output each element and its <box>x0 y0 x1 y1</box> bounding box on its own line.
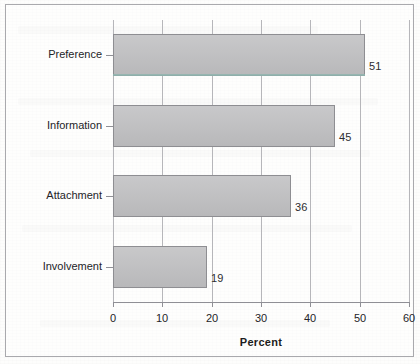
y-tick-mark <box>106 55 113 56</box>
x-tick-mark <box>261 302 262 307</box>
bar-preference <box>113 34 365 76</box>
bar-involvement <box>113 246 207 288</box>
x-tick-label: 10 <box>147 312 177 324</box>
x-tick-mark <box>212 302 213 307</box>
y-tick-mark <box>106 196 113 197</box>
x-tick-mark <box>310 302 311 307</box>
x-tick-label: 20 <box>197 312 227 324</box>
x-tick-mark <box>113 302 114 307</box>
x-tick-label: 0 <box>98 312 128 324</box>
category-label-information: Information <box>20 119 102 131</box>
x-tick-label: 30 <box>246 312 276 324</box>
figure-root: 0102030405060Preference51Information45At… <box>0 0 420 364</box>
value-label-information: 45 <box>339 131 352 143</box>
bar-attachment <box>113 175 291 217</box>
x-tick-label: 50 <box>345 312 375 324</box>
x-tick-mark <box>360 302 361 307</box>
x-gridline <box>409 20 410 302</box>
category-label-involvement: Involvement <box>20 260 102 272</box>
category-label-preference: Preference <box>20 48 102 60</box>
x-tick-label: 40 <box>295 312 325 324</box>
value-label-attachment: 36 <box>295 201 308 213</box>
x-axis-title: Percent <box>113 336 409 348</box>
bar-information <box>113 105 335 147</box>
y-tick-mark <box>106 126 113 127</box>
x-tick-mark <box>409 302 410 307</box>
x-tick-mark <box>162 302 163 307</box>
value-label-preference: 51 <box>369 60 382 72</box>
x-tick-label: 60 <box>394 312 420 324</box>
y-tick-mark <box>106 267 113 268</box>
category-label-attachment: Attachment <box>20 189 102 201</box>
value-label-involvement: 19 <box>211 272 224 284</box>
